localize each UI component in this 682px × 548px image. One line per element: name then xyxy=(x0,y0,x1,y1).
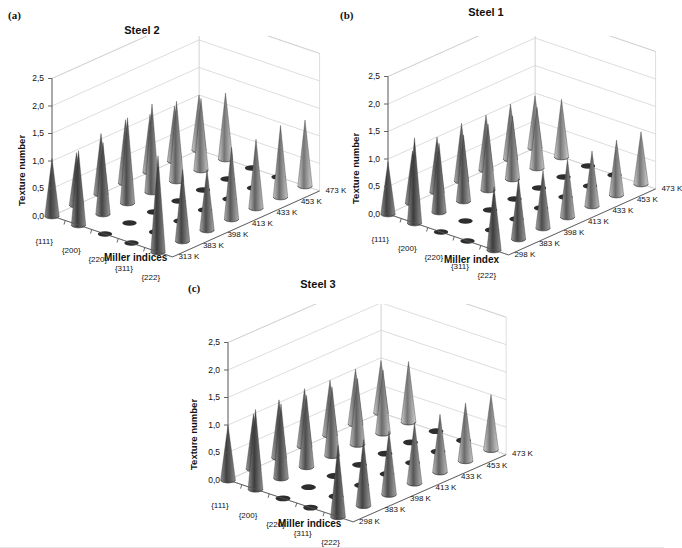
z-axis-tick: 298 K xyxy=(359,517,380,526)
y-axis-tick: 1,0 xyxy=(198,420,220,430)
y-axis-tick: 2,0 xyxy=(22,101,44,111)
z-axis-tick: 298 K xyxy=(514,250,535,259)
panel-c: (c) Steel 3 Texture number0,00,51,01,52,… xyxy=(166,274,526,539)
z-axis-tick: 433 K xyxy=(276,208,297,217)
y-axis-label: Texture number xyxy=(350,133,361,204)
x-tick-mark xyxy=(64,221,65,225)
x-axis-tick: {200} xyxy=(239,511,258,520)
y-axis-tick: 0,5 xyxy=(198,447,220,457)
y-axis-tick: 1,5 xyxy=(198,392,220,402)
x-axis-label: Miller indices xyxy=(104,252,167,263)
y-axis-tick: 1,0 xyxy=(22,156,44,166)
x-axis-tick: {111} xyxy=(371,235,389,244)
zero-value-marker xyxy=(122,220,136,226)
panel-b-title: Steel 1 xyxy=(416,6,556,18)
x-tick-mark xyxy=(427,228,428,232)
x-axis-tick: {222} xyxy=(321,538,340,547)
panel-a: (a) Steel 2 Texture number0,00,51,01,52,… xyxy=(0,0,332,274)
z-axis-tick: 398 K xyxy=(563,228,584,237)
x-axis-tick: {311} xyxy=(294,529,312,538)
x-axis-label: Miller indices xyxy=(278,518,341,529)
z-axis-tick: 413 K xyxy=(252,219,273,228)
panel-b: (b) Steel 1 Texture number0,00,51,01,52,… xyxy=(332,0,664,274)
x-tick-mark xyxy=(323,512,324,516)
panel-b-tag: (b) xyxy=(340,9,353,21)
z-axis-tick: 433 K xyxy=(612,206,633,215)
z-axis-tick: 383 K xyxy=(385,505,406,514)
panel-c-tag: (c) xyxy=(188,282,200,294)
y-axis-tick: 2,5 xyxy=(198,337,220,347)
y-axis-tick: 0,0 xyxy=(22,211,44,221)
z-axis-tick: 473 K xyxy=(512,449,533,458)
x-tick-mark xyxy=(480,246,481,250)
y-axis-label: Texture number xyxy=(16,135,27,206)
y-axis-tick: 2,5 xyxy=(358,71,380,81)
x-tick-mark xyxy=(453,237,454,241)
y-axis-tick: 0,5 xyxy=(358,181,380,191)
x-axis-label: Miller index xyxy=(444,254,499,265)
z-axis-tick: 398 K xyxy=(227,230,248,239)
z-axis-tick: 398 K xyxy=(410,494,431,503)
z-axis-tick: 413 K xyxy=(436,483,457,492)
z-axis-tick: 383 K xyxy=(203,241,224,250)
z-axis-tick: 473 K xyxy=(661,184,682,193)
y-axis-tick: 2,0 xyxy=(358,99,380,109)
x-axis-tick: {111} xyxy=(35,237,53,246)
panel-a-title: Steel 2 xyxy=(72,24,212,36)
x-tick-mark xyxy=(117,239,118,243)
zero-value-marker xyxy=(301,484,316,490)
x-axis-tick: {200} xyxy=(62,246,81,255)
x-axis-tick: {111} xyxy=(211,501,229,510)
x-axis-tick: {200} xyxy=(398,244,417,253)
y-axis-tick: 0,5 xyxy=(22,183,44,193)
x-tick-mark xyxy=(296,503,297,507)
panel-c-plot: Texture number0,00,51,01,52,02,5{111}{20… xyxy=(166,304,526,539)
panel-a-tag: (a) xyxy=(8,9,21,21)
x-tick-mark xyxy=(268,494,269,498)
y-axis-tick: 0,0 xyxy=(198,475,220,485)
z-axis-tick: 313 K xyxy=(178,252,199,261)
z-axis-tick: 383 K xyxy=(539,239,560,248)
panel-a-plot: Texture number0,00,51,01,52,02,5{111}{20… xyxy=(0,36,332,274)
z-axis-tick: 453 K xyxy=(637,195,658,204)
panel-b-plot: Texture number0,00,51,01,52,02,5{111}{20… xyxy=(332,36,664,274)
y-axis-tick: 1,5 xyxy=(358,126,380,136)
z-axis-tick: 453 K xyxy=(301,197,322,206)
y-axis-tick: 2,5 xyxy=(22,73,44,83)
x-axis-tick: {311} xyxy=(115,264,133,273)
z-axis-tick: 433 K xyxy=(461,472,482,481)
z-axis-tick: 453 K xyxy=(487,461,508,470)
x-tick-mark xyxy=(241,485,242,489)
x-tick-mark xyxy=(400,219,401,223)
y-axis-tick: 0,0 xyxy=(358,209,380,219)
y-axis-tick: 1,0 xyxy=(358,154,380,164)
x-tick-mark xyxy=(91,230,92,234)
x-axis-tick: {222} xyxy=(141,273,160,282)
x-axis-tick: {220} xyxy=(424,253,443,262)
z-axis-tick: 413 K xyxy=(588,217,609,226)
x-tick-mark xyxy=(144,248,145,252)
y-axis-tick: 1,5 xyxy=(22,128,44,138)
zero-value-marker xyxy=(458,218,472,224)
panel-c-title: Steel 3 xyxy=(248,278,388,290)
y-axis-label: Texture number xyxy=(188,399,199,470)
y-axis-tick: 2,0 xyxy=(198,365,220,375)
